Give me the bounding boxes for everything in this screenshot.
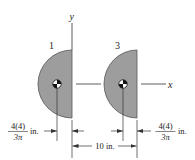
shape-1-label: 1 xyxy=(49,40,54,51)
x-axis-label: x xyxy=(167,79,173,90)
right-offset-numerator: 4(4) xyxy=(158,121,172,131)
right-offset-unit: in. xyxy=(178,126,187,136)
composite-area-diagram: y 1 3 x 4(4) 3π in. xyxy=(0,0,195,160)
centroid-icon xyxy=(53,80,61,88)
right-offset-dimension: 4(4) 3π in. xyxy=(111,121,187,142)
spacing-dimension: 10 in. xyxy=(73,141,137,151)
y-axis-label: y xyxy=(69,11,75,22)
left-offset-unit: in. xyxy=(30,126,39,136)
left-offset-denominator: 3π xyxy=(13,132,23,142)
spacing-label: 10 in. xyxy=(95,141,114,151)
left-offset-dimension: 4(4) 3π in. xyxy=(8,121,84,142)
semicircle-3: 3 xyxy=(104,40,137,118)
centroid-icon xyxy=(119,80,127,88)
right-offset-denominator: 3π xyxy=(160,132,170,142)
shape-3-label: 3 xyxy=(115,40,120,51)
left-offset-numerator: 4(4) xyxy=(11,121,25,131)
y-axis: y xyxy=(69,11,75,50)
semicircle-1: 1 xyxy=(38,40,72,118)
